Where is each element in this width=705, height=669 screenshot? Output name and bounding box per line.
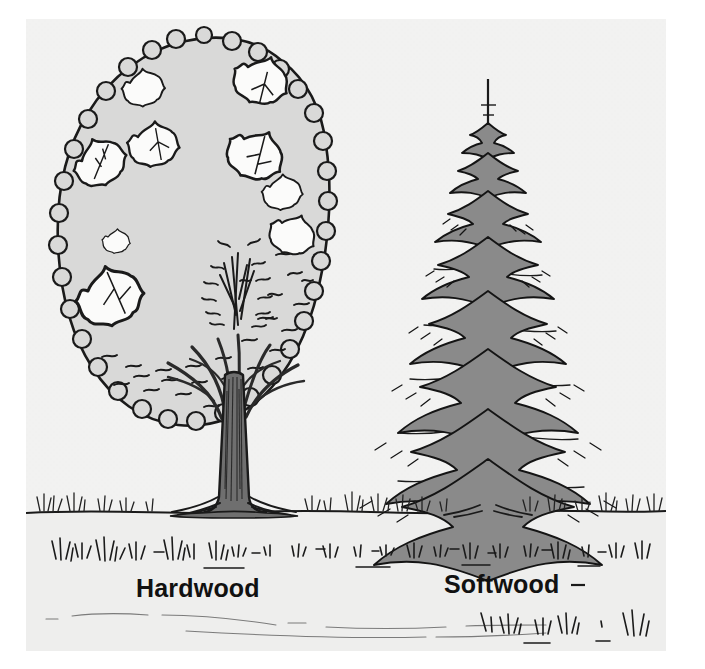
ground-plane (26, 511, 666, 651)
label-softwood: Softwood (444, 570, 559, 598)
tree-comparison-drawing: Hardwood Softwood (26, 19, 666, 651)
illustration-stage: Hardwood Softwood (0, 0, 705, 669)
label-hardwood: Hardwood (136, 574, 260, 602)
illustration-panel: Hardwood Softwood (26, 19, 666, 651)
